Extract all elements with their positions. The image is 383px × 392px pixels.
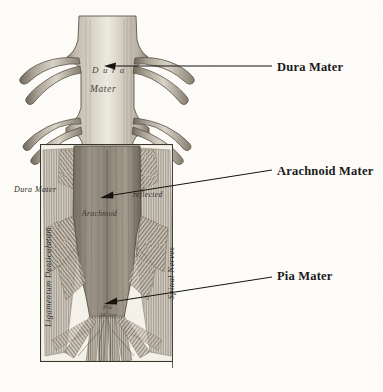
engraving-label-ligamentum: Ligamentum Denticulatum — [43, 207, 53, 347]
engraving-label-spinal-nerves: Spinal Nerves — [166, 213, 176, 333]
figure-canvas: D u r a Mater Dura Mater reflected Arach… — [0, 0, 383, 392]
engraving-label-arachnoid: Arachnoid — [82, 209, 117, 218]
callout-label-pia-mater: Pia Mater — [277, 269, 333, 284]
callout-label-arachnoid-mater: Arachnoid Mater — [277, 164, 373, 179]
specimen-plate — [40, 144, 173, 366]
engraving-label-dura-top-line2: Mater — [90, 84, 116, 94]
engraving-label-pia-line2: Mater — [100, 311, 117, 318]
engraving-label-reflected: reflected — [133, 190, 163, 199]
engraving-label-pia-line1: Pia — [103, 303, 113, 310]
engraving-illustration — [0, 0, 383, 392]
engraving-label-dura-left: Dura Mater — [14, 185, 56, 194]
callout-label-dura-mater: Dura Mater — [277, 60, 343, 75]
engraving-label-dura-top-line1: D u r a — [92, 65, 125, 75]
